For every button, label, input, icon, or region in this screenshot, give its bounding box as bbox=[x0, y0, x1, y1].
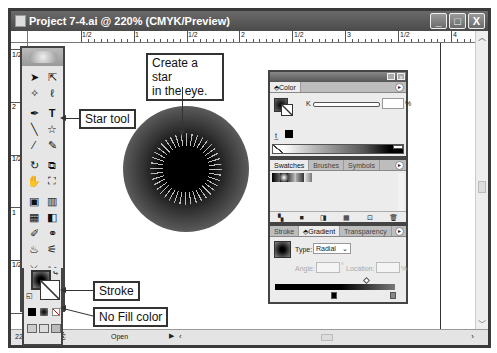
new-swatch-icon[interactable]: ⊡ bbox=[367, 212, 373, 222]
ruler-origin[interactable] bbox=[11, 31, 28, 43]
line-tool-icon[interactable]: ╲ bbox=[26, 122, 42, 136]
blend-tool-icon[interactable]: ⚭ bbox=[44, 226, 60, 240]
gradient-stop-black[interactable] bbox=[331, 292, 337, 299]
star-tool-icon[interactable]: ☆ bbox=[44, 122, 60, 136]
tab-brushes[interactable]: Brushes bbox=[309, 160, 344, 170]
location-input[interactable] bbox=[376, 262, 400, 273]
warp-tool-icon[interactable]: ✋ bbox=[26, 174, 42, 188]
ruler-tick bbox=[305, 39, 306, 42]
stroke-mini[interactable] bbox=[281, 104, 293, 116]
horizontal-scroll-thumb[interactable] bbox=[321, 334, 333, 341]
panel-close-icon[interactable]: x bbox=[397, 73, 405, 80]
magic-wand-tool-icon[interactable]: ✧ bbox=[26, 86, 42, 100]
panel-menu-button[interactable]: ▸ bbox=[395, 161, 404, 170]
tab-transparency[interactable]: Transparency bbox=[340, 226, 392, 236]
scroll-up-icon[interactable]: ︿ bbox=[476, 31, 488, 42]
gradient-slider[interactable] bbox=[275, 284, 395, 290]
type-tool-icon[interactable]: T bbox=[44, 106, 60, 120]
rotate-tool-icon[interactable]: ↻ bbox=[26, 158, 42, 172]
paintbrush-tool-icon[interactable]: ⁄ bbox=[26, 138, 42, 152]
k-label: K bbox=[306, 100, 311, 107]
panel-minimize-icon[interactable] bbox=[387, 73, 395, 80]
ruler-tick bbox=[259, 39, 260, 42]
color-mode-button[interactable] bbox=[28, 308, 36, 316]
swatch[interactable] bbox=[288, 173, 296, 182]
swatch[interactable] bbox=[280, 173, 288, 182]
percent-unit: % bbox=[401, 265, 407, 272]
live-paint-bucket-icon[interactable]: ♨ bbox=[26, 242, 42, 256]
swatch-libraries-icon[interactable]: ▚ bbox=[278, 212, 283, 222]
ruler-tick bbox=[444, 39, 445, 42]
eyedropper-tool-icon[interactable]: ✐ bbox=[26, 226, 42, 240]
scroll-thumb[interactable] bbox=[478, 181, 486, 193]
gradient-tool-icon[interactable]: ◧ bbox=[44, 210, 60, 224]
live-paint-selection-icon[interactable]: ⚟ bbox=[44, 242, 60, 256]
toolbox-header[interactable] bbox=[22, 48, 63, 66]
swatch[interactable] bbox=[272, 173, 280, 182]
show-pattern-swatches-icon[interactable]: ▦ bbox=[343, 212, 350, 222]
default-fill-stroke-icon[interactable]: ◱ bbox=[26, 292, 33, 300]
swatch[interactable] bbox=[296, 173, 304, 182]
scroll-right-icon[interactable]: › bbox=[471, 332, 474, 341]
vertical-scrollbar[interactable]: ︿ ﹀ bbox=[475, 31, 488, 329]
panel-menu-button[interactable]: ▸ bbox=[395, 83, 404, 92]
stroke-swatch[interactable] bbox=[40, 280, 60, 300]
delete-swatch-icon[interactable]: 🗑 bbox=[389, 212, 398, 222]
pen-tool-icon[interactable]: ✒ bbox=[26, 106, 42, 120]
none-swatch[interactable] bbox=[273, 145, 283, 153]
minimize-button[interactable]: _ bbox=[430, 13, 447, 29]
horizontal-ruler[interactable]: 1/2 1 1/2 2 1/2 3 1/2 4 bbox=[28, 31, 475, 43]
status-menu-arrow-icon[interactable]: ▶ bbox=[169, 332, 174, 340]
out-of-gamut-icon[interactable]: t̲ bbox=[275, 132, 277, 139]
swap-fill-stroke-icon[interactable]: ⤷ bbox=[53, 268, 57, 278]
full-screen-menu-mode-button[interactable] bbox=[39, 324, 49, 333]
free-transform-tool-icon[interactable]: ⛶ bbox=[44, 174, 60, 188]
angle-input[interactable] bbox=[316, 262, 340, 273]
type-select[interactable]: Radial ⌄ bbox=[313, 243, 351, 254]
show-color-swatches-icon[interactable]: ■ bbox=[299, 212, 303, 222]
gradient-mode-button[interactable] bbox=[40, 308, 48, 316]
panel-header[interactable]: x bbox=[270, 72, 406, 82]
selection-tool-icon[interactable]: ➤ bbox=[26, 70, 42, 84]
fill-stroke-widget: ⤷ ◱ bbox=[22, 268, 63, 346]
none-mode-button[interactable] bbox=[52, 308, 60, 316]
scroll-down-icon[interactable]: ﹀ bbox=[476, 318, 488, 329]
scale-tool-icon[interactable]: ⧉ bbox=[44, 158, 60, 172]
ruler-tick bbox=[411, 39, 412, 42]
color-ramp[interactable] bbox=[272, 144, 404, 154]
tab-gradient[interactable]: ⬘Gradient bbox=[299, 226, 340, 236]
ruler-tick bbox=[81, 31, 82, 42]
black-swatch[interactable] bbox=[285, 130, 293, 138]
direct-selection-tool-icon[interactable]: ⇱ bbox=[44, 70, 60, 84]
callout-create-star: Create a star in the eye. bbox=[146, 53, 224, 101]
status-text[interactable]: Open bbox=[111, 333, 128, 340]
full-screen-mode-button[interactable] bbox=[51, 324, 61, 333]
guide-line[interactable] bbox=[440, 43, 441, 329]
lasso-tool-icon[interactable]: ℓ bbox=[44, 86, 60, 100]
symbol-sprayer-tool-icon[interactable]: ▣ bbox=[26, 194, 42, 208]
close-button[interactable]: X bbox=[468, 13, 485, 29]
swatches-scrollbar[interactable] bbox=[398, 173, 404, 211]
ruler-tick bbox=[140, 39, 141, 42]
panel-menu-button[interactable]: ▸ bbox=[395, 227, 404, 236]
swatch[interactable] bbox=[304, 173, 312, 182]
tab-stroke[interactable]: Stroke bbox=[270, 226, 299, 236]
mesh-tool-icon[interactable]: ▦ bbox=[26, 210, 42, 224]
scroll-left-icon[interactable]: ‹ bbox=[179, 332, 182, 341]
white-swatch[interactable] bbox=[393, 145, 403, 149]
title-bar[interactable]: Project 7-4.ai @ 220% (CMYK/Preview) _ □… bbox=[11, 11, 488, 31]
eye-artwork[interactable] bbox=[123, 106, 249, 232]
tab-swatches[interactable]: Swatches bbox=[270, 160, 309, 170]
graph-tool-icon[interactable]: ▥ bbox=[44, 194, 60, 208]
maximize-button[interactable]: □ bbox=[449, 13, 466, 29]
k-slider[interactable] bbox=[313, 102, 380, 107]
midpoint-diamond-icon[interactable] bbox=[363, 277, 370, 284]
tab-color[interactable]: ⬘Color bbox=[270, 82, 301, 92]
tab-symbols[interactable]: Symbols bbox=[344, 160, 380, 170]
k-value-input[interactable] bbox=[382, 98, 404, 109]
show-gradient-swatches-icon[interactable]: ◨ bbox=[320, 212, 327, 222]
gradient-stop-gray[interactable] bbox=[390, 292, 396, 299]
pencil-tool-icon[interactable]: ✎ bbox=[44, 138, 60, 152]
gradient-preview[interactable] bbox=[274, 241, 291, 258]
normal-screen-mode-button[interactable] bbox=[27, 324, 37, 333]
